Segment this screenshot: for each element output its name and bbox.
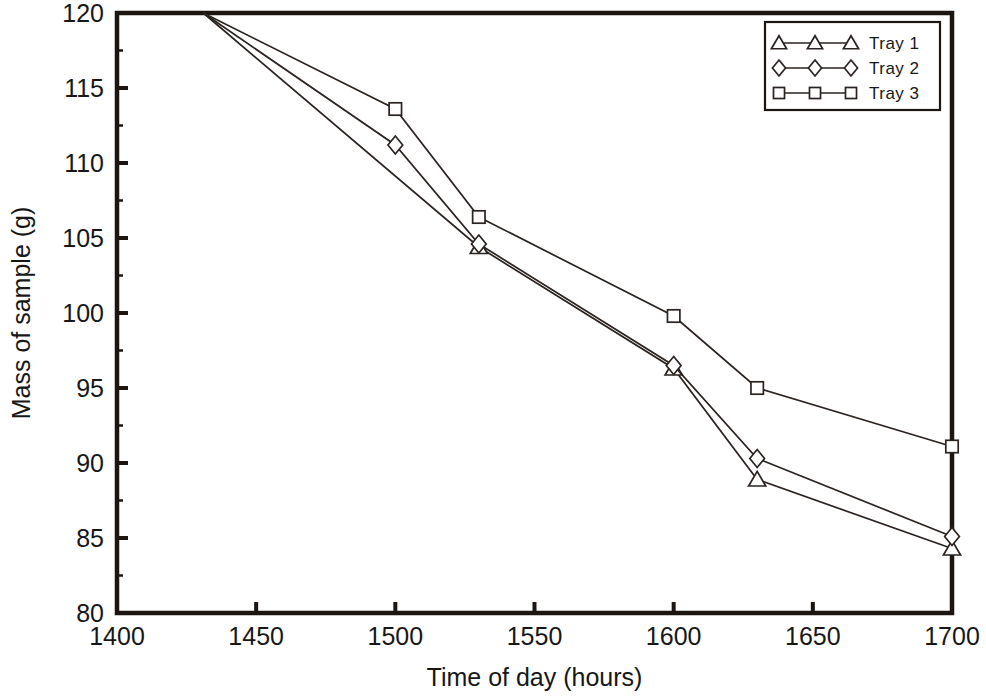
marker-diamond — [945, 528, 960, 546]
line-chart: 8085909510010511011512014001450150015501… — [0, 0, 986, 699]
x-tick-label: 1700 — [924, 622, 980, 650]
x-tick-label: 1400 — [89, 622, 145, 650]
x-tick-label: 1550 — [507, 622, 563, 650]
plot-frame — [117, 13, 952, 613]
chart-legend: Tray 1Tray 2Tray 3 — [765, 22, 940, 110]
legend-label: Tray 2 — [869, 59, 920, 78]
series-line — [203, 13, 952, 537]
marker-square — [473, 211, 485, 223]
marker-diamond — [844, 60, 857, 76]
marker-square — [773, 87, 784, 98]
y-tick-label: 115 — [64, 74, 104, 102]
series-line — [203, 13, 952, 447]
marker-diamond — [808, 60, 821, 76]
marker-square — [389, 103, 401, 115]
axes-layer — [117, 13, 952, 613]
x-axis-title: Time of day (hours) — [427, 663, 643, 691]
marker-diamond — [772, 60, 785, 76]
marker-triangle — [749, 471, 766, 486]
marker-square — [667, 310, 679, 322]
x-tick-label: 1600 — [646, 622, 702, 650]
y-tick-label: 105 — [62, 224, 104, 252]
legend-label: Tray 3 — [869, 84, 920, 103]
legend-item-tray-2[interactable]: Tray 2 — [772, 59, 919, 78]
x-tick-label: 1650 — [785, 622, 841, 650]
legend-item-tray-3[interactable]: Tray 3 — [773, 84, 919, 103]
axis-labels-layer: 8085909510010511011512014001450150015501… — [7, 0, 980, 691]
legend-item-tray-1[interactable]: Tray 1 — [771, 34, 919, 53]
marker-square — [751, 382, 763, 394]
x-tick-label: 1500 — [368, 622, 424, 650]
chart-figure: 8085909510010511011512014001450150015501… — [0, 0, 986, 699]
x-tick-label: 1450 — [228, 622, 284, 650]
y-tick-label: 120 — [62, 0, 104, 27]
y-axis-title: Mass of sample (g) — [7, 207, 35, 420]
marker-square — [845, 87, 856, 98]
y-tick-label: 95 — [76, 374, 104, 402]
marker-square — [946, 440, 958, 452]
y-tick-label: 100 — [62, 299, 104, 327]
y-tick-label: 90 — [76, 449, 104, 477]
legend-label: Tray 1 — [869, 34, 920, 53]
series-tray-3 — [203, 13, 958, 453]
marker-square — [809, 87, 820, 98]
y-tick-label: 85 — [76, 524, 104, 552]
y-tick-label: 110 — [64, 149, 104, 177]
